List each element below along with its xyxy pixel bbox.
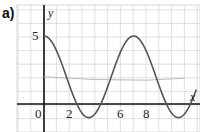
x-tick-6: 6	[117, 106, 124, 121]
x-axis-label: x	[189, 90, 196, 104]
x-tick-2: 2	[66, 106, 73, 121]
chart: y x 5 0 2 6 8	[0, 0, 200, 132]
x-tick-8: 8	[143, 106, 150, 121]
y-axis-label: y	[47, 6, 54, 20]
y-tick-5: 5	[32, 28, 39, 43]
midline	[44, 77, 185, 80]
x-tick-0: 0	[35, 106, 42, 121]
